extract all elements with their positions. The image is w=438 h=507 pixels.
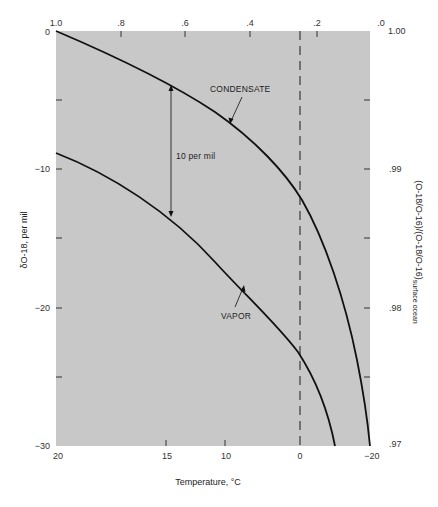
right-tick-1.00: 1.00 [388, 26, 406, 36]
vapor-label: VAPOR [221, 311, 251, 321]
bottom-tick-20: 20 [53, 451, 63, 461]
separation-label: 10 per mil [176, 151, 215, 161]
left-tick-minus10: −10 [35, 164, 50, 174]
left-axis-labels: 0 −10 −20 −30 [35, 27, 50, 451]
fractionation-chart: 1.0 .8 .6 .4 .2 .0 0 −10 −20 −30 δO-18, … [0, 0, 438, 507]
right-axis-labels: 1.00 .99 .98 .97 [388, 26, 406, 449]
y2-axis-title-sub: surface ocean [412, 280, 419, 324]
bottom-tick-minus20: −20 [364, 451, 379, 461]
y-axis-title: δO-18, per mil [19, 211, 29, 268]
right-tick-.99: .99 [389, 164, 402, 174]
x-axis-title: Temperature, °C [175, 477, 241, 487]
y2-axis-title: (O-18/O-16)/(O-18/O-16)surface ocean [412, 180, 424, 324]
bottom-tick-15: 15 [162, 451, 172, 461]
right-tick-.98: .98 [389, 303, 402, 313]
bottom-tick-0: 0 [297, 451, 302, 461]
left-tick-minus30: −30 [35, 441, 50, 451]
top-tick-.4: .4 [246, 18, 254, 28]
bottom-axis-labels: 20 15 10 0 −20 [53, 451, 380, 461]
top-tick-.8: .8 [117, 18, 125, 28]
left-tick-minus20: −20 [35, 303, 50, 313]
top-tick-1.0: 1.0 [50, 18, 63, 28]
top-tick-.2: .2 [313, 18, 321, 28]
top-tick-.0: .0 [377, 18, 385, 28]
bottom-tick-10: 10 [221, 451, 231, 461]
condensate-label: CONDENSATE [210, 84, 271, 94]
top-tick-.6: .6 [181, 18, 189, 28]
y2-axis-title-main: (O-18/O-16)/(O-18/O-16) [414, 180, 424, 280]
right-tick-.97: .97 [389, 439, 402, 449]
left-tick-0: 0 [45, 27, 50, 37]
top-axis-labels: 1.0 .8 .6 .4 .2 .0 [50, 18, 385, 28]
